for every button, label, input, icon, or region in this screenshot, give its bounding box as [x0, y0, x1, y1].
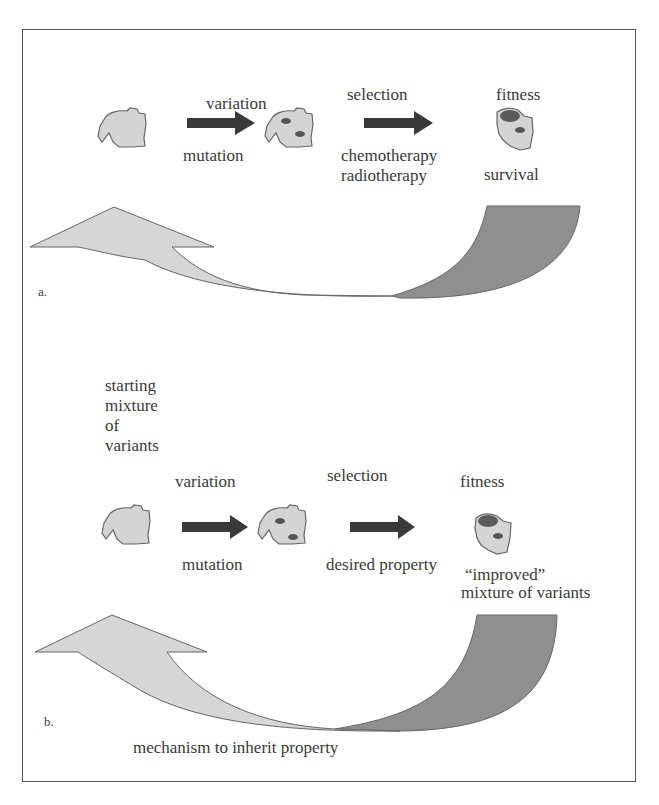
panel-a-fit-cell	[497, 108, 533, 150]
panel-a-mutation-label: mutation	[183, 146, 243, 165]
panel-b-variation-label: variation	[175, 472, 235, 491]
panel-b-fit-cell	[475, 514, 511, 554]
start-line-4: variants	[105, 436, 159, 455]
panel-a-mutated-cell	[265, 108, 313, 147]
panel-a-radiotherapy-label: radiotherapy	[341, 166, 427, 185]
panel-b-mixture-label: mixture of variants	[461, 583, 590, 602]
panel-b-mutation-arrow	[182, 515, 248, 539]
panel-b-selection-label: selection	[327, 466, 387, 485]
panel-a-selection-label: selection	[347, 85, 407, 104]
panel-a-fitness-label: fitness	[496, 85, 540, 104]
loop-caption: mechanism to inherit property	[133, 738, 338, 757]
panel-b-return-arrow	[35, 615, 557, 731]
panel-a-mutation-arrow	[187, 111, 255, 135]
panel-b-mutated-cell	[258, 505, 306, 544]
panel-a-initial-cell	[98, 108, 146, 147]
panel-b-fitness-label: fitness	[460, 472, 504, 491]
start-line-3: of	[105, 416, 119, 435]
start-line-2: mixture	[105, 396, 158, 415]
panel-b-mutation-label: mutation	[182, 555, 242, 574]
panel-b-improved-label: “improved”	[465, 565, 545, 584]
panel-a-survival-label: survival	[484, 165, 539, 184]
panel-a-variation-label: variation	[206, 94, 266, 113]
panel-a-selection-arrow	[364, 111, 433, 135]
panel-a-label: a.	[38, 282, 47, 301]
panel-b-label: b.	[44, 712, 54, 731]
panel-b-initial-cell	[102, 505, 150, 544]
panel-b-selection-arrow	[350, 515, 415, 539]
panel-a-return-arrow	[30, 206, 580, 298]
start-line-1: starting	[105, 376, 156, 395]
panel-a-chemotherapy-label: chemotherapy	[341, 146, 437, 165]
panel-b-desired-property-label: desired property	[326, 555, 437, 574]
diagram-graphics	[0, 0, 659, 805]
